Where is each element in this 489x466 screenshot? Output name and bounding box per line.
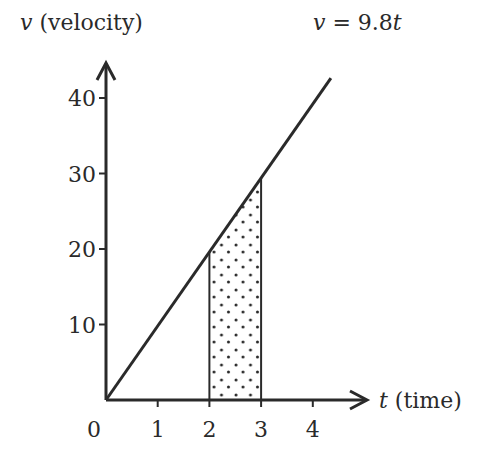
- x-tick-label: 1: [151, 417, 165, 442]
- equation-label: v = 9.8t: [313, 10, 402, 35]
- y-tick-label: 30: [68, 162, 96, 187]
- x-tick-label: 2: [202, 417, 216, 442]
- y-tick-label: 40: [68, 86, 96, 111]
- shaded-area-region: [209, 178, 261, 400]
- velocity-time-chart: 123410203040 v (velocity) v = 9.8t t (ti…: [0, 0, 489, 466]
- y-axis-label: v (velocity): [20, 10, 143, 35]
- y-tick-label: 20: [68, 237, 96, 262]
- y-tick-label: 10: [68, 313, 96, 338]
- origin-label: 0: [87, 417, 101, 442]
- x-tick-label: 3: [254, 417, 268, 442]
- x-tick-label: 4: [306, 417, 320, 442]
- dotted-area: [209, 178, 261, 400]
- x-axis-label: t (time): [379, 388, 462, 413]
